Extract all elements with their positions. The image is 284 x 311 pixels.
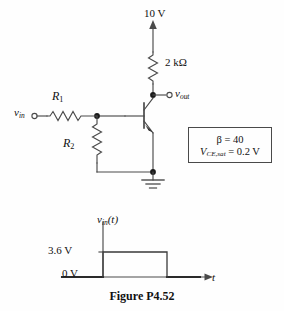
input-terminal-circle	[32, 113, 37, 118]
waveform-tick-label-high: 3.6 V	[48, 245, 72, 256]
figure-container: vin R1 R2 10 V 2 kΩ vout β = 40 VCE,sat …	[0, 0, 284, 311]
output-terminal-circle	[167, 92, 172, 97]
figure-caption: Figure P4.52	[0, 289, 284, 304]
r1-resistor-symbol	[47, 112, 97, 121]
beta-parameter: β = 40	[216, 134, 243, 145]
output-node-label: vout	[175, 88, 189, 99]
waveform-x-axis-label: t	[212, 272, 215, 283]
vce-sat-parameter: VCE,sat = 0.2 V	[200, 146, 260, 157]
collector-resistor-label: 2 kΩ	[165, 57, 187, 68]
waveform-y-axis-label: vin(t)	[97, 214, 118, 225]
supply-arrowhead	[149, 20, 157, 29]
transistor-emitter-lead	[144, 121, 153, 133]
r1-label: R1	[52, 90, 63, 102]
waveform-tick-label-low: 0 V	[62, 268, 78, 279]
waveform-pulse-trace	[103, 252, 167, 277]
transistor-collector-lead	[144, 98, 153, 110]
supply-voltage-label: 10 V	[144, 8, 166, 19]
r2-label: R2	[63, 137, 74, 149]
r2-resistor-symbol	[93, 116, 102, 163]
input-node-label: vin	[14, 107, 25, 118]
collector-resistor-symbol	[149, 52, 158, 84]
parameter-box: β = 40 VCE,sat = 0.2 V	[188, 127, 272, 163]
